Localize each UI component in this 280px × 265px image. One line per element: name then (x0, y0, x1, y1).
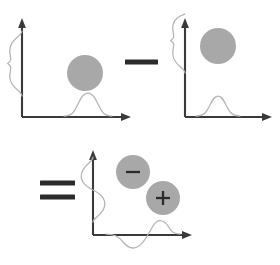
panel-2-x-axis-arrowhead (262, 113, 272, 121)
panel-1-x-profile-curve (64, 93, 112, 116)
panel-2-gray-disk (200, 28, 236, 64)
figure-canvas (0, 0, 280, 265)
panel-1-x-axis-arrowhead (121, 113, 131, 121)
positive-lobe-disk (146, 181, 180, 215)
panel-subtrahend (171, 14, 272, 121)
panel-difference (81, 150, 192, 248)
equals-operator-bar-bottom (40, 195, 75, 200)
negative-lobe-disk (116, 155, 150, 189)
decomposition-figure (0, 0, 280, 265)
panel-1-gray-disk (67, 55, 103, 91)
panel-3-x-axis-arrowhead (182, 231, 192, 239)
equals-operator (40, 181, 75, 200)
minus-operator-bar (125, 60, 158, 65)
panel-2-y-axis-arrowhead (181, 18, 189, 28)
panel-1-y-profile-curve (8, 31, 22, 96)
panel-1-y-axis-arrowhead (18, 18, 26, 28)
panel-2-y-profile-curve (171, 14, 185, 73)
panel-minuend (8, 18, 131, 121)
minus-operator (125, 60, 158, 65)
panel-2-x-profile-curve (196, 96, 240, 116)
equals-operator-bar-top (40, 181, 75, 186)
